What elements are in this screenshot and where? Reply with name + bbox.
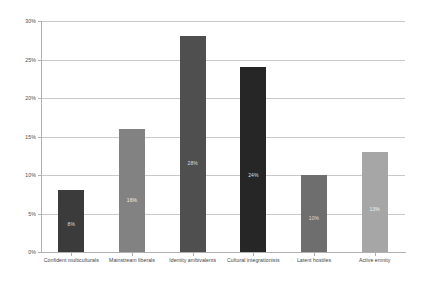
y-tick-label: 20% bbox=[4, 95, 36, 101]
y-tick-label: 30% bbox=[4, 18, 36, 24]
plot-area: 8%16%28%24%10%13% bbox=[41, 21, 405, 252]
bar-chart: 0%5%10%15%20%25%30% 8%16%28%24%10%13% Co… bbox=[0, 0, 424, 284]
y-tick-label: 25% bbox=[4, 57, 36, 63]
x-tick-mark bbox=[253, 253, 254, 256]
x-tick-label: Latent hostiles bbox=[284, 257, 345, 263]
y-tick-label: 0% bbox=[4, 249, 36, 255]
bar-value-label: 28% bbox=[180, 160, 206, 166]
x-tick-mark bbox=[71, 253, 72, 256]
bar-group: 16% bbox=[119, 21, 145, 252]
bar-group: 8% bbox=[58, 21, 84, 252]
x-tick-label: Cultural integrationists bbox=[223, 257, 284, 263]
x-tick-mark bbox=[314, 253, 315, 256]
bar-group: 10% bbox=[301, 21, 327, 252]
x-tick-label: Confident multiculturals bbox=[41, 257, 102, 263]
x-axis-line bbox=[41, 252, 406, 253]
bar[interactable] bbox=[119, 129, 145, 252]
bar-group: 24% bbox=[240, 21, 266, 252]
x-tick-label: Identity ambivalents bbox=[162, 257, 223, 263]
bar[interactable] bbox=[362, 152, 388, 252]
bar-group: 13% bbox=[362, 21, 388, 252]
y-tick-label: 5% bbox=[4, 211, 36, 217]
bar[interactable] bbox=[301, 175, 327, 252]
y-tick-label: 10% bbox=[4, 172, 36, 178]
bar-value-label: 24% bbox=[240, 172, 266, 178]
x-tick-label: Active enmity bbox=[344, 257, 405, 263]
x-tick-label: Mainstream liberals bbox=[102, 257, 163, 263]
bar-value-label: 8% bbox=[58, 221, 84, 227]
x-tick-mark bbox=[132, 253, 133, 256]
x-tick-mark bbox=[193, 253, 194, 256]
bar-group: 28% bbox=[180, 21, 206, 252]
bar-value-label: 10% bbox=[301, 215, 327, 221]
bar[interactable] bbox=[240, 67, 266, 252]
x-tick-mark bbox=[375, 253, 376, 256]
bar-value-label: 13% bbox=[362, 206, 388, 212]
bar[interactable] bbox=[180, 36, 206, 252]
y-tick-label: 15% bbox=[4, 134, 36, 140]
bar-value-label: 16% bbox=[119, 197, 145, 203]
